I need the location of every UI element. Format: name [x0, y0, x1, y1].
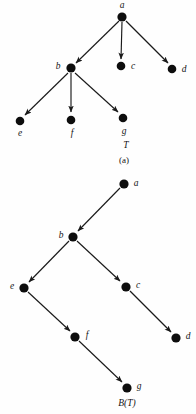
node-label-bt-f: f — [86, 330, 90, 340]
node-bt-a[interactable] — [119, 179, 128, 188]
node-label-e: e — [18, 128, 22, 138]
node-bt-c[interactable] — [121, 282, 130, 291]
node-bt-d[interactable] — [171, 333, 180, 342]
node-label-bt-d: d — [186, 331, 191, 341]
edge-a-b — [76, 21, 119, 63]
node-f[interactable] — [67, 116, 76, 125]
node-label-a: a — [120, 0, 125, 10]
node-b[interactable] — [66, 63, 75, 72]
edge-group-tree-t — [25, 21, 168, 115]
node-label-f: f — [71, 128, 75, 138]
node-c[interactable] — [117, 62, 126, 71]
edge-a-c — [121, 22, 122, 59]
edge-b-g — [75, 73, 118, 112]
label-group-binary-tree: a b e c f d g — [10, 178, 191, 391]
tree-figure-svg: a b c d e f g T (a) — [0, 0, 196, 414]
node-label-bt-b: b — [59, 230, 64, 240]
node-g[interactable] — [119, 114, 128, 123]
panel-binary-tree: a b e c f d g B(T) — [10, 178, 191, 409]
edge-a-d — [126, 21, 168, 63]
node-label-bt-a: a — [134, 178, 139, 188]
figure-container: a b c d e f g T (a) — [0, 0, 196, 414]
node-bt-e[interactable] — [19, 283, 28, 292]
edge-group-binary-tree — [28, 188, 171, 382]
node-label-bt-e: e — [10, 281, 14, 291]
edge-bt-c-d — [130, 291, 171, 332]
node-label-bt-c: c — [136, 280, 141, 290]
edge-bt-a-b — [78, 188, 120, 231]
node-group-tree-t — [16, 12, 177, 125]
panel-general-tree: a b c d e f g T (a) — [16, 0, 187, 165]
node-label-g: g — [122, 126, 127, 136]
edge-bt-e-f — [28, 292, 70, 331]
node-label-bt-g: g — [137, 381, 142, 391]
node-bt-g[interactable] — [122, 383, 131, 392]
node-bt-b[interactable] — [68, 232, 77, 241]
node-d[interactable] — [168, 65, 177, 74]
panel-caption-bt: B(T) — [118, 398, 135, 409]
panel-caption-a: (a) — [119, 155, 129, 165]
edge-b-e — [25, 73, 68, 115]
node-label-d: d — [182, 64, 187, 74]
edge-bt-f-g — [79, 341, 122, 382]
label-group-tree-t: a b c d e f g — [18, 0, 187, 138]
edge-bt-b-e — [29, 241, 69, 282]
node-label-b: b — [56, 61, 61, 71]
tree-name-t: T — [123, 140, 129, 150]
node-label-c: c — [131, 61, 136, 71]
node-a[interactable] — [117, 12, 126, 21]
node-e[interactable] — [16, 117, 25, 126]
node-bt-f[interactable] — [70, 332, 79, 341]
edge-bt-b-c — [77, 241, 120, 281]
